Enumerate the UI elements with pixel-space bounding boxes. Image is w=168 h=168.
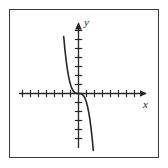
y-axis-label: y: [83, 16, 89, 28]
coordinate-plane: y x: [0, 0, 168, 168]
graph-screenshot: y x: [0, 0, 168, 168]
x-axis-label: x: [142, 98, 148, 110]
